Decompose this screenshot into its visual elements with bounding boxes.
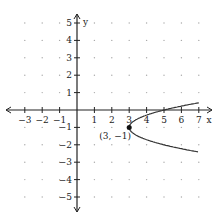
x-tick-label: −2: [36, 115, 49, 125]
x-tick-label: 1: [92, 115, 98, 125]
grid-dot: [94, 75, 95, 76]
grid-dot: [146, 40, 147, 41]
grid-dot: [42, 92, 43, 93]
vertex-label: (3, −1): [99, 131, 131, 141]
x-tick-label: 6: [179, 115, 185, 125]
grid-dot: [163, 196, 164, 197]
y-tick-label: 5: [66, 18, 72, 28]
grid-dot: [198, 22, 199, 23]
grid-dot: [146, 127, 147, 128]
grid-dot: [59, 57, 60, 58]
y-tick-label: 1: [66, 88, 72, 98]
grid-dot: [94, 57, 95, 58]
grid-dot: [24, 92, 25, 93]
grid-dot: [42, 162, 43, 163]
grid-dot: [198, 144, 199, 145]
grid-dot: [198, 162, 199, 163]
x-tick-label: 4: [144, 115, 150, 125]
grid-dot: [59, 75, 60, 76]
grid-dot: [163, 22, 164, 23]
grid-dot: [24, 22, 25, 23]
y-tick-label: −5: [59, 192, 73, 202]
grid-dot: [181, 40, 182, 41]
y-tick-label: 2: [66, 70, 72, 80]
grid-dot: [111, 179, 112, 180]
grid-dot: [163, 40, 164, 41]
grid-dot: [94, 162, 95, 163]
grid-dot: [198, 179, 199, 180]
grid-dot: [181, 127, 182, 128]
grid-dot: [129, 75, 130, 76]
grid-dot: [163, 127, 164, 128]
vertex-point: [127, 125, 132, 130]
y-tick-label: −1: [59, 122, 72, 132]
grid-dot: [163, 57, 164, 58]
grid-dot: [129, 40, 130, 41]
x-tick-label: 5: [161, 115, 167, 125]
grid-dot: [24, 75, 25, 76]
x-tick-label: 7: [196, 115, 202, 125]
grid-dot: [198, 92, 199, 93]
grid-dot: [42, 40, 43, 41]
grid-dot: [146, 92, 147, 93]
grid-dot: [24, 179, 25, 180]
grid-dot: [24, 127, 25, 128]
grid-dot: [146, 75, 147, 76]
grid-dot: [111, 75, 112, 76]
grid-dot: [59, 22, 60, 23]
grid-dot: [146, 57, 147, 58]
y-tick-label: 3: [66, 53, 72, 63]
grid-dot: [94, 144, 95, 145]
grid-dot: [163, 75, 164, 76]
grid-dot: [129, 144, 130, 145]
graph-figure: −3−2−1123456754321−1−2−3−4−5xy(3, −1): [0, 0, 218, 221]
grid-dot: [59, 92, 60, 93]
x-tick-label: −3: [18, 115, 32, 125]
grid-dot: [111, 40, 112, 41]
grid-dot: [146, 22, 147, 23]
grid-dot: [24, 144, 25, 145]
grid-dot: [181, 179, 182, 180]
grid-dot: [111, 127, 112, 128]
grid-dot: [111, 144, 112, 145]
grid-dot: [181, 196, 182, 197]
grid-dot: [42, 179, 43, 180]
grid-dot: [129, 179, 130, 180]
grid-dot: [198, 40, 199, 41]
grid-dot: [181, 162, 182, 163]
grid-dot: [198, 57, 199, 58]
grid-dot: [111, 92, 112, 93]
grid-dot: [24, 57, 25, 58]
grid-dot: [146, 162, 147, 163]
y-tick-label: 4: [66, 35, 72, 45]
grid-dot: [94, 127, 95, 128]
grid-dot: [42, 144, 43, 145]
grid-dot: [111, 57, 112, 58]
y-tick-label: −4: [59, 175, 73, 185]
grid-dot: [94, 179, 95, 180]
grid-dot: [42, 75, 43, 76]
grid-dot: [94, 40, 95, 41]
x-tick-label: 2: [109, 115, 115, 125]
grid-dot: [198, 196, 199, 197]
coordinate-plane: −3−2−1123456754321−1−2−3−4−5xy(3, −1): [0, 0, 218, 221]
grid-dot: [198, 75, 199, 76]
grid-dot: [198, 127, 199, 128]
grid-dot: [24, 196, 25, 197]
y-axis-label: y: [82, 17, 89, 27]
grid-dot: [163, 92, 164, 93]
grid-dot: [94, 196, 95, 197]
grid-dot: [129, 57, 130, 58]
grid-dot: [24, 40, 25, 41]
grid-dot: [42, 127, 43, 128]
grid-dot: [181, 22, 182, 23]
grid-dot: [94, 22, 95, 23]
grid-dot: [146, 196, 147, 197]
grid-dot: [163, 179, 164, 180]
grid-dot: [129, 196, 130, 197]
grid-dot: [181, 75, 182, 76]
grid-dot: [111, 196, 112, 197]
grid-dot: [163, 162, 164, 163]
grid-dot: [129, 162, 130, 163]
grid-dot: [111, 22, 112, 23]
